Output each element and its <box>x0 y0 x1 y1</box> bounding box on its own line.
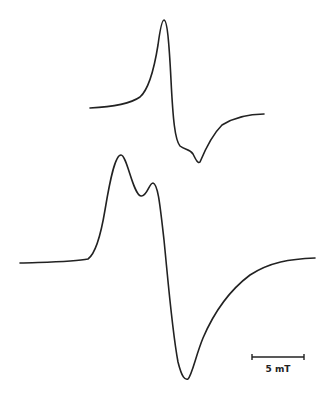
epr-spectra-chart: 5 mT <box>0 0 329 399</box>
scale-bar: 5 mT <box>252 354 304 374</box>
lower-spectrum-trace <box>20 155 315 379</box>
scale-bar-label: 5 mT <box>266 364 292 374</box>
upper-spectrum-trace <box>90 20 264 163</box>
